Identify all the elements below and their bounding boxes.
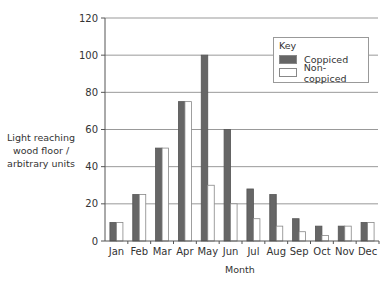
bar-non-coppiced-jun [231,204,238,241]
y-tick-label: 0 [92,236,98,247]
bar-coppiced-oct [315,226,322,241]
bar-coppiced-mar [156,148,163,241]
x-axis-label: Month [225,264,255,275]
bar-non-coppiced-jan [116,222,123,241]
legend-item-non-coppiced: Non-coppiced [279,67,368,78]
bar-non-coppiced-jul [253,219,260,241]
y-axis-label: Light reaching wood floor / arbitrary un… [0,131,82,170]
x-tick-label: Apr [176,246,194,257]
y-axis-label-line: arbitrary units [0,157,82,170]
bar-non-coppiced-nov [345,226,352,241]
bar-coppiced-jan [110,222,117,241]
bar-non-coppiced-dec [368,222,375,241]
bar-coppiced-nov [338,226,345,241]
legend-swatch-coppiced [279,55,297,64]
bar-non-coppiced-apr [185,102,192,241]
y-axis-label-line: Light reaching [0,131,82,144]
x-tick-label: Feb [130,246,148,257]
bar-coppiced-dec [361,222,368,241]
bar-non-coppiced-mar [162,148,169,241]
x-tick-label: Jan [108,246,124,257]
bar-coppiced-feb [133,195,140,241]
x-axis-ticks: JanFebMarAprMayJunJulAugSepOctNovDec [108,241,379,257]
y-tick-label: 80 [85,87,98,98]
x-tick-label: Aug [266,246,286,257]
bar-non-coppiced-feb [139,195,146,241]
legend-swatch-non-coppiced [279,68,297,77]
x-tick-label: Dec [358,246,377,257]
x-tick-label: Mar [153,246,173,257]
y-tick-label: 40 [85,161,98,172]
legend-label: Non-coppiced [304,62,368,84]
y-axis-label-line: wood floor / [0,144,82,157]
y-tick-label: 100 [79,50,98,61]
bar-coppiced-apr [178,102,185,241]
bar-non-coppiced-aug [276,226,283,241]
bar-non-coppiced-oct [322,235,329,241]
legend: Key Coppiced Non-coppiced [273,37,369,83]
y-tick-label: 60 [85,124,98,135]
bar-coppiced-jul [247,189,254,241]
x-tick-label: Oct [313,246,330,257]
bar-non-coppiced-may [208,185,215,241]
x-tick-label: Sep [290,246,309,257]
bar-coppiced-sep [293,219,300,241]
x-tick-label: Jun [222,246,239,257]
legend-title: Key [279,40,296,51]
bar-non-coppiced-sep [299,232,306,241]
x-tick-label: May [197,246,218,257]
bar-coppiced-aug [270,195,277,241]
x-tick-label: Jul [246,246,259,257]
y-tick-label: 20 [85,198,98,209]
bar-coppiced-jun [224,130,231,242]
bar-coppiced-may [201,55,208,241]
y-axis-ticks: 020406080100120 [79,13,105,247]
y-tick-label: 120 [79,13,98,24]
x-tick-label: Nov [335,246,355,257]
